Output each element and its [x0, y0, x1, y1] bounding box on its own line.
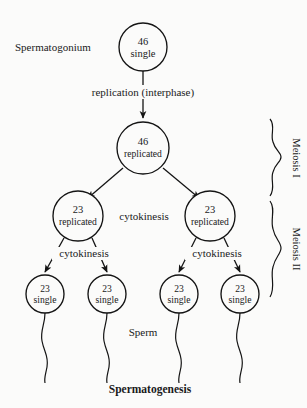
- cell-spermatid-3-state: single: [168, 294, 191, 305]
- label-spermatogonium: Spermatogonium: [15, 41, 91, 53]
- label-sperm: Sperm: [129, 326, 158, 338]
- cell-spermatid-1-count: 23: [40, 283, 50, 294]
- cell-spermatid-4-count: 23: [235, 283, 245, 294]
- label-cytokinesis-meiosis1: cytokinesis: [119, 210, 169, 222]
- sperm-tail-2: [104, 313, 110, 383]
- label-meiosis-ii: Meiosis II: [291, 228, 302, 271]
- diagram-canvas: 46 single 46 replicated 23 replicated 23…: [0, 0, 307, 408]
- cell-spermatogonium: [119, 23, 167, 71]
- sperm-tail-3: [176, 313, 182, 383]
- cell-spermatid-2-state: single: [96, 294, 119, 305]
- cell-spermatogonium-count: 46: [138, 36, 149, 47]
- cell-spermatid-4-state: single: [229, 294, 252, 305]
- arrow-meiosis1-right: [163, 168, 199, 198]
- sperm-tail-1: [42, 313, 48, 383]
- label-cytokinesis-right: cytokinesis: [192, 247, 242, 259]
- label-meiosis-i: Meiosis I: [291, 138, 302, 178]
- cell-secondary-spermatocyte-left-count: 23: [73, 204, 84, 215]
- spermatogenesis-figure: 46 single 46 replicated 23 replicated 23…: [0, 0, 307, 408]
- arrow-meiosis1-left: [88, 168, 123, 198]
- label-cytokinesis-left: cytokinesis: [59, 247, 109, 259]
- sperm-tail-4: [237, 313, 243, 383]
- brace-meiosis-i: [270, 119, 281, 196]
- cell-spermatid-1-state: single: [34, 294, 57, 305]
- cell-spermatogonium-state: single: [130, 48, 155, 59]
- figure-title: Spermatogenesis: [109, 383, 192, 396]
- label-replication: replication (interphase): [92, 86, 195, 99]
- cell-secondary-spermatocyte-right-count: 23: [205, 204, 216, 215]
- brace-meiosis-ii: [270, 201, 281, 297]
- cell-spermatid-3-count: 23: [174, 283, 184, 294]
- cell-primary-spermatocyte-state: replicated: [124, 148, 162, 159]
- cell-secondary-spermatocyte-right-state: replicated: [191, 216, 229, 227]
- cell-secondary-spermatocyte-left-state: replicated: [59, 216, 97, 227]
- cell-primary-spermatocyte-count: 46: [138, 136, 149, 147]
- cell-spermatid-2-count: 23: [102, 283, 112, 294]
